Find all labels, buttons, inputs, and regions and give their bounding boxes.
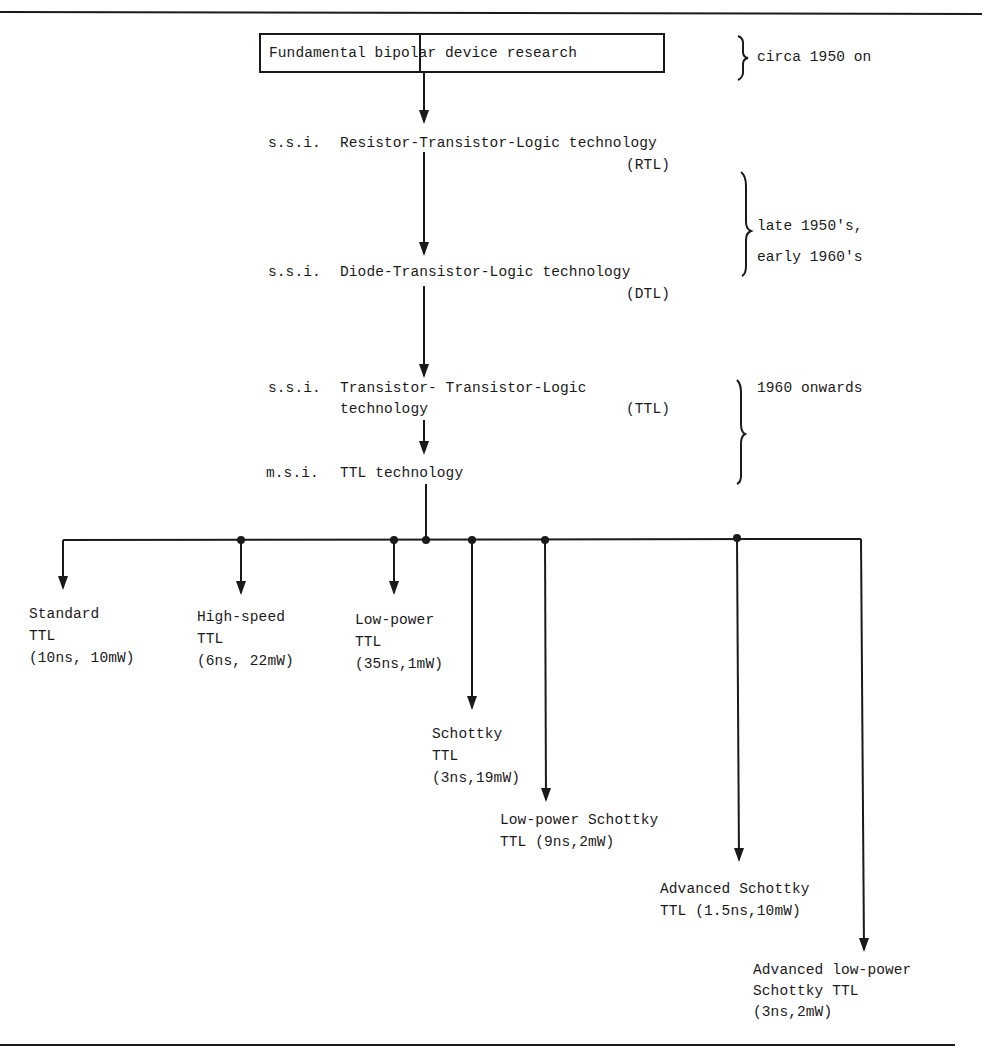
connector-lines	[0, 0, 982, 1054]
stage-rtl-prefix: s.s.i.	[268, 135, 321, 152]
top-rule	[0, 12, 982, 14]
period-late-1950s: late 1950's,	[757, 218, 863, 235]
family-standard-specs: (10ns, 10mW)	[29, 650, 135, 667]
stage-ttl-text2: technology	[340, 401, 428, 418]
brace-1960-onwards	[737, 380, 745, 484]
junction-dot	[422, 536, 430, 544]
family-standard-name: Standard	[29, 606, 99, 623]
family-schottky-line2: TTL	[432, 748, 458, 765]
root-research-label: Fundamental bipolar device research	[269, 45, 577, 62]
family-adv-schottky-name: Advanced Schottky	[660, 881, 810, 898]
period-early-1960s: early 1960's	[757, 249, 863, 266]
ttl-evolution-diagram: Fundamental bipolar device research circ…	[0, 0, 982, 1054]
family-lowpower-name: Low-power	[355, 612, 434, 629]
stage-ttl-text: Transistor- Transistor-Logic	[340, 380, 586, 397]
junction-dot	[237, 536, 245, 544]
family-lp-schottky-name: Low-power Schottky	[500, 812, 658, 829]
family-adv-lp-schottky-specs: (3ns,2mW)	[753, 1004, 832, 1021]
family-schottky-specs: (3ns,19mW)	[432, 770, 520, 787]
brace-circa-1950	[738, 36, 748, 80]
junction-dot	[468, 536, 476, 544]
period-circa-1950: circa 1950 on	[757, 49, 871, 66]
stage-msi-text: TTL technology	[340, 465, 463, 482]
family-standard-line2: TTL	[29, 628, 55, 645]
stage-rtl-text: Resistor-Transistor-Logic technology	[340, 135, 657, 152]
brace-late-1950s	[741, 172, 751, 276]
period-1960-onwards: 1960 onwards	[757, 380, 863, 397]
family-highspeed-line2: TTL	[197, 631, 223, 648]
family-highspeed-name: High-speed	[197, 609, 285, 626]
junction-dot	[541, 536, 549, 544]
junction-dot	[733, 534, 741, 542]
stage-dtl-text: Diode-Transistor-Logic technology	[340, 264, 630, 281]
junction-dot	[390, 536, 398, 544]
family-lp-schottky-line2: TTL (9ns,2mW)	[500, 834, 614, 851]
family-lowpower-specs: (35ns,1mW)	[355, 656, 443, 673]
stage-dtl-prefix: s.s.i.	[268, 264, 321, 281]
family-highspeed-specs: (6ns, 22mW)	[197, 653, 294, 670]
family-adv-schottky-line2: TTL (1.5ns,10mW)	[660, 903, 801, 920]
root-research-box: Fundamental bipolar device research	[259, 33, 665, 73]
stage-ttl-prefix: s.s.i.	[268, 380, 321, 397]
stage-dtl-abbrev: (DTL)	[626, 286, 670, 303]
stage-ttl-abbrev: (TTL)	[626, 401, 670, 418]
family-adv-lp-schottky-name: Advanced low-power	[753, 962, 911, 979]
family-lowpower-line2: TTL	[355, 634, 381, 651]
stage-msi-prefix: m.s.i.	[266, 465, 319, 482]
stage-rtl-abbrev: (RTL)	[626, 157, 670, 174]
family-schottky-name: Schottky	[432, 726, 502, 743]
family-adv-lp-schottky-line2: Schottky TTL	[753, 983, 859, 1000]
